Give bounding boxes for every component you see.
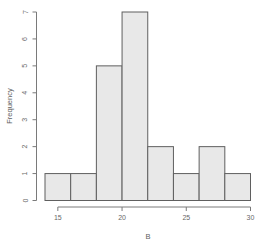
histogram-bar bbox=[71, 174, 97, 201]
histogram-bar bbox=[122, 12, 148, 201]
histogram-bar bbox=[199, 147, 225, 201]
y-tick-label: 5 bbox=[22, 64, 29, 68]
histogram-bar bbox=[45, 174, 71, 201]
y-tick-label: 4 bbox=[22, 91, 29, 95]
r-plot-figure: 0123456715202530 Frequency B bbox=[0, 0, 263, 247]
x-tick-label: 15 bbox=[54, 214, 62, 221]
histogram-bar bbox=[173, 174, 199, 201]
x-tick-label: 25 bbox=[182, 214, 190, 221]
y-tick-label: 6 bbox=[22, 37, 29, 41]
y-tick-label: 7 bbox=[22, 10, 29, 14]
histogram-chart: 0123456715202530 Frequency B bbox=[0, 0, 263, 247]
y-tick-label: 1 bbox=[22, 172, 29, 176]
y-tick-label: 0 bbox=[22, 198, 29, 202]
y-axis-title: Frequency bbox=[5, 88, 14, 124]
histogram-bar bbox=[225, 174, 251, 201]
y-tick-label: 3 bbox=[22, 118, 29, 122]
x-tick-label: 30 bbox=[247, 214, 255, 221]
histogram-bar bbox=[148, 147, 174, 201]
x-tick-label: 20 bbox=[118, 214, 126, 221]
y-tick-label: 2 bbox=[22, 145, 29, 149]
bars-group bbox=[45, 12, 251, 201]
x-axis-title: B bbox=[145, 232, 150, 241]
histogram-bar bbox=[96, 66, 122, 201]
